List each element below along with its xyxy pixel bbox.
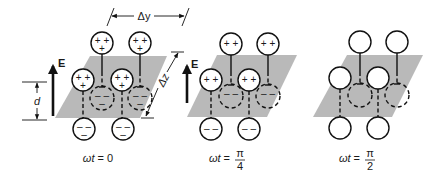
dipole-array-diagram: Δy Δz d E– ––+ +++ ++– ––– ––+ +++ ++– –… — [0, 0, 444, 179]
positive-charge-sphere — [329, 67, 351, 89]
d-label: d — [34, 95, 41, 107]
charge-sign: – — [137, 98, 143, 109]
charge-sign: + — [80, 80, 86, 91]
phase-label: ωt =π2 — [339, 147, 375, 172]
charge-sign: – – — [261, 88, 275, 99]
delta-y-dimension: Δy — [107, 8, 189, 26]
charge-sign: – — [120, 129, 126, 140]
charge-sign: + — [137, 43, 143, 54]
phase-label: ωt = 0 — [83, 152, 113, 164]
fraction-denominator: 4 — [237, 160, 243, 172]
phase-label-text: ωt = 0 — [83, 152, 113, 164]
charge-sign: + + — [242, 74, 257, 85]
delta-y-label: Δy — [138, 10, 151, 22]
charge-sign: + — [99, 43, 105, 54]
phase-label-lhs: ωt = — [339, 152, 360, 164]
positive-charge-sphere — [349, 31, 371, 53]
charge-sign: + + — [204, 74, 219, 85]
positive-charge-sphere — [367, 67, 389, 89]
charge-sign: + + — [224, 38, 239, 49]
positive-charge-sphere — [386, 31, 408, 53]
fraction-denominator: 2 — [367, 160, 373, 172]
charge-sign: + — [119, 80, 125, 91]
negative-charge-sphere — [367, 117, 389, 139]
phase-label: ωt =π4 — [209, 147, 245, 172]
negative-charge-sphere — [329, 117, 351, 139]
charge-sign: – — [99, 98, 105, 109]
charge-sign: – – — [224, 88, 238, 99]
phase-label-lhs: ωt = — [209, 152, 230, 164]
field-label: E — [58, 57, 65, 69]
charge-sign: – – — [204, 123, 218, 134]
d-separation-dimension: d — [22, 82, 47, 120]
panel-phase-pi-4: E– –+ ++ +– –– –+ ++ +– –ωt =π4 — [187, 33, 297, 172]
conducting-plane — [55, 56, 167, 118]
field-label: E — [191, 58, 198, 70]
charge-sign: + + — [261, 38, 276, 49]
panel-phase-0: E– ––+ +++ ++– ––– ––+ +++ ++– ––ωt = 0 — [53, 32, 167, 164]
phase-panels: E– ––+ +++ ++– ––– ––+ +++ ++– ––ωt = 0E… — [53, 31, 423, 172]
fraction-numerator: π — [236, 147, 244, 159]
charge-sign: – — [81, 129, 87, 140]
panel-phase-pi-2: ωt =π2 — [313, 31, 423, 172]
fraction-numerator: π — [366, 147, 374, 159]
charge-sign: – – — [242, 123, 256, 134]
